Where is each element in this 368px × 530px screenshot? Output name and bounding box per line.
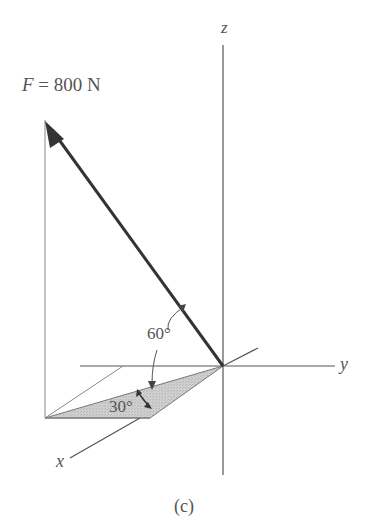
angle-30-label: 30° xyxy=(109,397,133,417)
force-equals: = xyxy=(34,74,54,95)
force-vector xyxy=(52,130,223,366)
angle-60-label: 60° xyxy=(147,324,171,344)
y-axis-label: y xyxy=(340,354,348,375)
figure-caption: (c) xyxy=(174,496,194,517)
force-label: F = 800 N xyxy=(22,74,101,96)
shaded-projection-plane xyxy=(45,366,223,418)
x-axis-front xyxy=(70,418,140,458)
force-magnitude: 800 N xyxy=(54,74,101,95)
x-axis-back xyxy=(223,348,258,366)
z-axis-label: z xyxy=(221,18,228,38)
angle-60-leader xyxy=(152,350,157,384)
force-symbol: F xyxy=(22,74,34,95)
x-axis-label: x xyxy=(56,451,64,472)
